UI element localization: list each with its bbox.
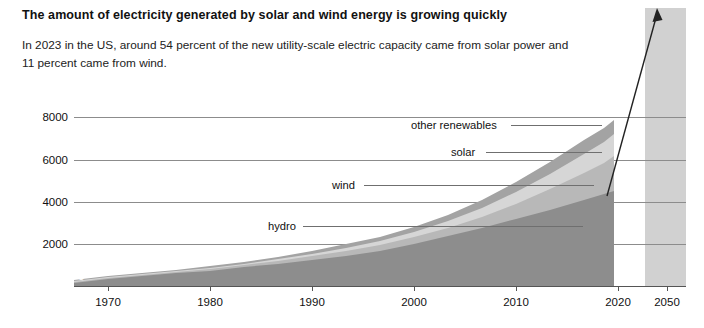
x-tickmark-2050: [667, 286, 668, 291]
x-tickmark-2020: [618, 286, 619, 291]
y-tick-4000: 4000: [42, 196, 68, 208]
x-tick-2050: 2050: [654, 296, 680, 308]
leader-solar: [486, 152, 602, 153]
leader-hydro: [303, 226, 583, 227]
x-tickmark-1970: [108, 286, 109, 291]
y-tick-8000: 8000: [42, 111, 68, 123]
x-tick-1990: 1990: [299, 296, 325, 308]
chart-root: The amount of electricity generated by s…: [0, 0, 704, 328]
y-tick-0: 0: [78, 270, 84, 282]
y-tick-6000: 6000: [42, 154, 68, 166]
series-label-hydro: hydro: [268, 220, 296, 232]
x-tick-2010: 2010: [503, 296, 529, 308]
y-tick-2000: 2000: [42, 238, 68, 250]
series-label-wind: wind: [332, 179, 355, 191]
plot-area: 8000 6000 4000 2000 0 1970 1980 1990 200…: [74, 96, 686, 286]
x-tickmark-2000: [414, 286, 415, 291]
series-label-other-renewables: other renewables: [411, 119, 497, 131]
x-tickmark-2010: [516, 286, 517, 291]
x-tick-1980: 1980: [197, 296, 223, 308]
leader-wind: [364, 185, 594, 186]
x-tickmark-1990: [312, 286, 313, 291]
x-axis-line: [74, 286, 686, 287]
x-tick-1970: 1970: [95, 296, 121, 308]
x-tick-2020: 2020: [605, 296, 631, 308]
page-title: The amount of electricity generated by s…: [22, 8, 662, 22]
leader-other-renewables: [511, 125, 602, 126]
x-tickmark-1980: [210, 286, 211, 291]
x-tick-2000: 2000: [401, 296, 427, 308]
series-label-solar: solar: [451, 146, 475, 158]
page-subtitle: In 2023 in the US, around 54 percent of …: [22, 36, 582, 72]
